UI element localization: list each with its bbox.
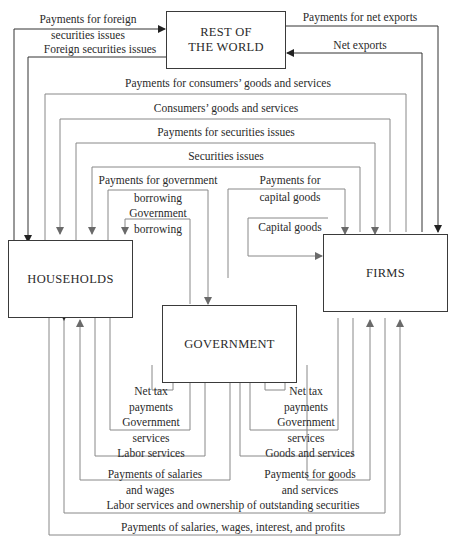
rest-of-world-line2: THE WORLD	[188, 40, 264, 55]
label-net-exports: Net exports	[333, 38, 386, 52]
label-pay-gov-borrowing-2: borrowing	[134, 191, 182, 205]
label-pay-gov-borrowing-1: Payments for government	[99, 173, 218, 187]
label-securities: Securities issues	[188, 149, 264, 163]
label-capital-goods: Capital goods	[258, 220, 322, 234]
label-consumer-goods: Consumers’ goods and services	[154, 101, 298, 115]
label-hh-gov-services-1: Government	[122, 415, 179, 429]
government-node: GOVERNMENT	[162, 305, 297, 383]
label-hh-net-tax-1: Net tax	[134, 384, 168, 398]
label-firm-gov-services-2: services	[287, 431, 324, 445]
label-hh-gov-services-2: services	[132, 431, 169, 445]
label-pay-salaries-profits: Payments of salaries, wages, interest, a…	[121, 520, 345, 534]
label-firm-gov-services-1: Government	[277, 415, 334, 429]
label-labor-ownership: Labor services and ownership of outstand…	[107, 498, 360, 512]
label-goods-services: Goods and services	[265, 446, 354, 460]
label-gov-borrowing-2: borrowing	[134, 222, 182, 236]
label-pay-salaries-1: Payments of salaries	[108, 467, 203, 481]
label-firm-net-tax-1: Net tax	[289, 384, 323, 398]
label-pay-capital-goods-1: Payments for	[259, 173, 320, 187]
label-firm-net-tax-2: payments	[284, 400, 328, 414]
label-pay-consumer-goods: Payments for consumers’ goods and servic…	[125, 76, 331, 90]
households-node: HOUSEHOLDS	[8, 240, 133, 318]
label-pay-capital-goods-2: capital goods	[260, 190, 321, 204]
label-pay-foreign-sec-1: Payments for foreign	[39, 12, 136, 26]
label-pay-goods-1: Payments for goods	[264, 467, 355, 481]
rest-of-world-line1: REST OF	[200, 25, 252, 40]
label-pay-goods-2: and services	[282, 483, 339, 497]
label-gov-borrowing-1: Government	[129, 206, 186, 220]
households-label: HOUSEHOLDS	[27, 272, 113, 287]
firms-node: FIRMS	[323, 234, 448, 312]
label-pay-securities: Payments for securities issues	[157, 125, 295, 139]
label-pay-net-exports: Payments for net exports	[303, 10, 418, 24]
label-hh-net-tax-2: payments	[129, 400, 173, 414]
label-labor-services: Labor services	[117, 446, 184, 460]
firms-label: FIRMS	[366, 266, 405, 281]
rest-of-world-node: REST OF THE WORLD	[166, 11, 286, 69]
government-label: GOVERNMENT	[184, 337, 275, 352]
label-pay-foreign-sec-2: securities issues	[51, 28, 125, 42]
label-foreign-sec: Foreign securities issues	[44, 42, 156, 56]
label-pay-salaries-2: and wages	[126, 483, 174, 497]
